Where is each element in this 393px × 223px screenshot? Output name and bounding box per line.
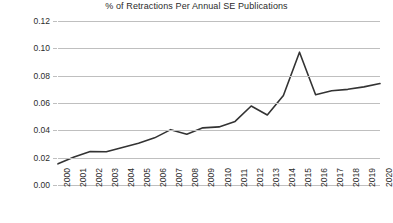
gridline-y: [58, 130, 380, 131]
line-chart: % of Retractions Per Annual SE Publicati…: [0, 0, 393, 223]
gridline-y: [58, 21, 380, 22]
x-tick-label: 2007: [174, 168, 184, 187]
y-tick-mark: [53, 185, 57, 186]
y-axis: % Retracted 0.000.020.040.060.080.100.12: [0, 0, 58, 223]
x-axis: 2000200120022003200420052006200720082009…: [58, 187, 380, 223]
y-tick-mark: [53, 103, 57, 104]
x-tick-label: 2000: [62, 168, 72, 187]
gridline-y: [58, 76, 380, 77]
x-tick-label: 2011: [239, 169, 249, 187]
x-tick-label: 2004: [126, 168, 136, 187]
x-tick-label: 2006: [158, 168, 168, 187]
y-tick-label: 0.06: [33, 98, 50, 108]
gridline-y: [58, 158, 380, 159]
y-tick-mark: [53, 130, 57, 131]
x-tick-label: 2014: [287, 168, 297, 187]
series-polyline: [58, 52, 380, 164]
y-tick-mark: [53, 76, 57, 77]
y-tick-label: 0.08: [33, 71, 50, 81]
x-tick-label: 2001: [78, 168, 88, 187]
x-tick-label: 2019: [367, 168, 377, 187]
x-tick-label: 2005: [142, 168, 152, 187]
x-tick-label: 2020: [384, 168, 393, 187]
y-tick-label: 0.02: [33, 153, 50, 163]
y-tick-label: 0.12: [33, 16, 50, 26]
x-tick-label: 2015: [303, 168, 313, 187]
y-tick-mark: [53, 48, 57, 49]
y-tick-mark: [53, 21, 57, 22]
x-tick-label: 2013: [271, 168, 281, 187]
gridline-y: [58, 48, 380, 49]
y-tick-label: 0.04: [33, 125, 50, 135]
gridline-y: [58, 185, 380, 186]
chart-title: % of Retractions Per Annual SE Publicati…: [0, 1, 393, 11]
x-tick-label: 2018: [351, 168, 361, 187]
y-tick-mark: [53, 158, 57, 159]
x-tick-label: 2012: [255, 168, 265, 187]
x-tick-label: 2009: [206, 168, 216, 187]
x-tick-label: 2017: [335, 168, 345, 187]
x-tick-label: 2016: [319, 168, 329, 187]
gridline-y: [58, 103, 380, 104]
x-tick-label: 2010: [223, 168, 233, 187]
y-tick-label: 0.10: [33, 43, 50, 53]
x-tick-label: 2002: [94, 168, 104, 187]
x-tick-label: 2003: [110, 168, 120, 187]
x-tick-label: 2008: [190, 168, 200, 187]
y-tick-label: 0.00: [33, 180, 50, 190]
plot-area: [58, 21, 380, 185]
